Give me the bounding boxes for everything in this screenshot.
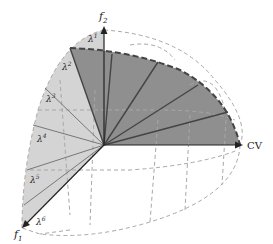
cv-label: CV — [247, 140, 263, 151]
pareto-front-diagram: f2 CV f1 λ1 λ2 λ3 λ4 λ5 λ6 — [0, 0, 273, 244]
f1-label: f1 — [13, 228, 23, 243]
lambda-label-6: λ6 — [35, 215, 46, 227]
f2-label: f2 — [98, 10, 108, 25]
